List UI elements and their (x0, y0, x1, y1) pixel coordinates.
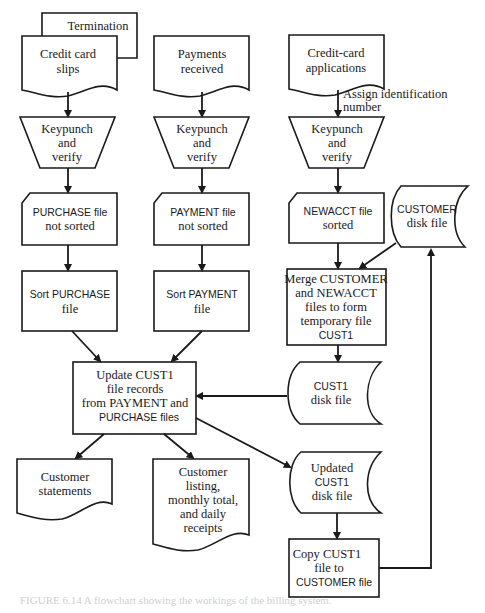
svg-text:number: number (343, 100, 382, 114)
svg-text:file to: file to (314, 561, 344, 575)
purchase-file-card: PURCHASE file not sorted (22, 193, 117, 245)
svg-text:not sorted: not sorted (45, 219, 95, 233)
svg-text:and daily: and daily (180, 507, 227, 521)
svg-text:Updated: Updated (311, 461, 354, 475)
keypunch-verify-1: Keypunch and verify (20, 117, 115, 168)
svg-text:PAYMENT file: PAYMENT file (170, 206, 236, 218)
svg-text:monthly total,: monthly total, (168, 493, 238, 507)
keypunch-verify-2: Keypunch and verify (154, 117, 249, 168)
payment-file-card: PAYMENT file not sorted (154, 193, 249, 245)
customer-listing-document: Customer listing, monthly total, and dai… (153, 459, 249, 551)
svg-text:PURCHASE files: PURCHASE files (99, 411, 179, 423)
svg-text:CUSTOMER: CUSTOMER (397, 203, 457, 215)
svg-text:Credit card: Credit card (40, 47, 97, 61)
svg-text:verify: verify (322, 150, 353, 164)
svg-text:received: received (181, 62, 224, 76)
svg-text:NEWACCT file: NEWACCT file (304, 205, 373, 217)
svg-text:Assign identification: Assign identification (343, 87, 448, 101)
sort-payment-process: Sort PAYMENT file (154, 271, 249, 331)
svg-text:Customer: Customer (41, 470, 90, 484)
customer-disk-file: CUSTOMER disk file (391, 186, 468, 247)
svg-text:Termination: Termination (68, 19, 130, 33)
svg-text:sorted: sorted (323, 218, 354, 232)
svg-text:disk file: disk file (407, 216, 448, 230)
svg-text:disk file: disk file (311, 393, 352, 407)
svg-text:Credit-card: Credit-card (308, 46, 366, 60)
svg-text:Keypunch: Keypunch (41, 122, 93, 136)
svg-text:Sort PURCHASE: Sort PURCHASE (30, 288, 111, 300)
payments-received-document: Payments received (154, 36, 249, 97)
svg-text:CUST1: CUST1 (314, 380, 349, 392)
svg-text:from PAYMENT and: from PAYMENT and (82, 396, 189, 410)
svg-text:and: and (58, 136, 77, 150)
svg-text:Sort PAYMENT: Sort PAYMENT (166, 288, 238, 300)
svg-text:Customer: Customer (179, 465, 228, 479)
cust1-disk-file: CUST1 disk file (288, 362, 381, 424)
svg-text:disk file: disk file (312, 489, 353, 503)
svg-text:file records: file records (107, 382, 164, 396)
updated-cust1-disk-file: Updated CUST1 disk file (290, 452, 381, 513)
billing-system-flowchart: Termination Credit card slips Payments r… (0, 0, 485, 613)
svg-text:receipts: receipts (184, 521, 223, 535)
svg-text:Update CUST1: Update CUST1 (96, 368, 173, 382)
svg-text:Payments: Payments (178, 47, 227, 61)
svg-text:verify: verify (187, 150, 218, 164)
svg-text:Keypunch: Keypunch (311, 122, 363, 136)
svg-text:statements: statements (39, 484, 92, 498)
svg-text:Merge CUSTOMER: Merge CUSTOMER (284, 272, 388, 286)
svg-text:applications: applications (306, 61, 367, 75)
figure-caption: FIGURE 6.14 A flowchart showing the work… (20, 594, 332, 606)
svg-text:file: file (62, 302, 79, 316)
svg-text:CUST1: CUST1 (315, 476, 350, 488)
svg-text:Copy CUST1: Copy CUST1 (293, 547, 361, 561)
merge-process: Merge CUSTOMER and NEWACCT files to form… (284, 269, 388, 345)
svg-text:and: and (328, 136, 347, 150)
svg-text:CUST1: CUST1 (319, 329, 354, 341)
svg-text:CUSTOMER file: CUSTOMER file (296, 576, 372, 588)
sort-purchase-process: Sort PURCHASE file (22, 271, 117, 331)
svg-text:slips: slips (57, 62, 80, 76)
credit-card-slips-document: Credit card slips (22, 36, 117, 97)
svg-text:and: and (193, 136, 212, 150)
copy-process: Copy CUST1 file to CUSTOMER file (289, 539, 379, 597)
svg-text:not sorted: not sorted (178, 219, 228, 233)
svg-text:verify: verify (52, 150, 83, 164)
svg-text:PURCHASE file: PURCHASE file (33, 206, 108, 218)
assign-id-annotation: Assign identification number (343, 87, 448, 114)
customer-statements-document: Customer statements (17, 459, 112, 520)
svg-text:and NEWACCT: and NEWACCT (295, 286, 377, 300)
keypunch-verify-3: Keypunch and verify (289, 117, 384, 168)
svg-text:temporary file: temporary file (300, 314, 372, 328)
svg-text:Keypunch: Keypunch (176, 122, 228, 136)
svg-text:file: file (194, 302, 211, 316)
newacct-file-card: NEWACCT file sorted (289, 193, 384, 243)
svg-text:files to form: files to form (305, 300, 367, 314)
svg-text:listing,: listing, (186, 479, 220, 493)
update-process: Update CUST1 file records from PAYMENT a… (73, 362, 196, 434)
